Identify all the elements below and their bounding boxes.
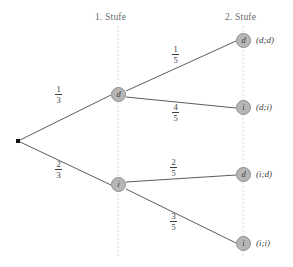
- probability-root-i-numerator: 2: [55, 160, 61, 169]
- probability-root-d-numerator: 1: [55, 85, 61, 94]
- probability-i-id-numerator: 2: [170, 158, 176, 167]
- probability-d-dd: 1 5: [172, 45, 179, 65]
- probability-i-ii-numerator: 3: [170, 212, 176, 221]
- probability-root-d-denominator: 3: [55, 96, 61, 105]
- probability-d-dd-numerator: 1: [172, 45, 178, 54]
- probability-root-i-denominator: 3: [55, 171, 61, 180]
- edge-i-ii: [126, 189, 236, 243]
- probability-i-ii: 3 5: [170, 212, 177, 232]
- probability-d-di: 4 5: [172, 103, 179, 123]
- stage-label-1: 1. Stufe: [95, 12, 126, 22]
- tree-diagram: 1. Stufe 2. Stufe d i d i d i (d;d) (d;i…: [0, 0, 293, 267]
- outcome-dd: (d;d): [256, 35, 274, 45]
- node-stage2-id-label: d: [241, 170, 245, 179]
- edge-d-di: [126, 97, 236, 108]
- node-stage1-i[interactable]: i: [111, 177, 126, 192]
- probability-d-di-numerator: 4: [172, 103, 178, 112]
- node-stage2-di-label: i: [242, 103, 244, 112]
- node-stage2-ii-label: i: [242, 239, 244, 248]
- edge-d-dd: [126, 41, 236, 91]
- node-stage1-d[interactable]: d: [111, 87, 126, 102]
- node-stage2-ii[interactable]: i: [236, 236, 251, 251]
- probability-root-d: 1 3: [55, 85, 62, 105]
- outcome-di: (d;i): [256, 102, 272, 112]
- node-stage1-i-label: i: [117, 180, 119, 189]
- outcome-ii: (i;i): [256, 238, 270, 248]
- probability-d-dd-denominator: 5: [172, 56, 178, 65]
- probability-i-id-denominator: 5: [170, 169, 176, 178]
- probability-d-di-denominator: 5: [172, 114, 178, 123]
- node-stage2-dd-label: d: [241, 36, 245, 45]
- root-node: [16, 139, 20, 143]
- edge-root-i: [18, 141, 111, 185]
- edge-root-d: [18, 95, 111, 141]
- stage-label-2: 2. Stufe: [225, 12, 256, 22]
- probability-i-ii-denominator: 5: [170, 223, 176, 232]
- node-stage2-id[interactable]: d: [236, 167, 251, 182]
- probability-i-id: 2 5: [170, 158, 177, 178]
- outcome-id: (i;d): [256, 169, 272, 179]
- probability-root-i: 2 3: [55, 160, 62, 180]
- node-stage2-dd[interactable]: d: [236, 33, 251, 48]
- edge-i-id: [126, 175, 236, 182]
- node-stage2-di[interactable]: i: [236, 100, 251, 115]
- node-stage1-d-label: d: [116, 90, 120, 99]
